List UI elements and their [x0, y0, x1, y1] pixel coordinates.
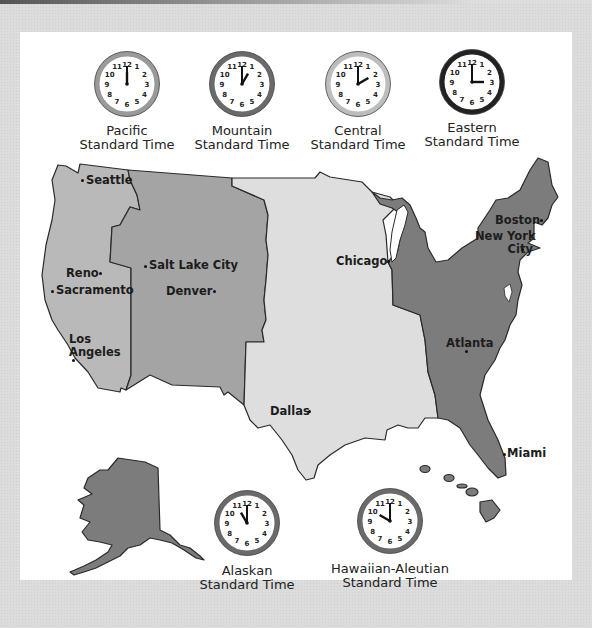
city-new-york-city: New York City	[475, 230, 533, 256]
clock-numeral: 2	[142, 71, 147, 79]
label-alaskan-line2: Standard Time	[177, 578, 317, 592]
clock-numeral: 2	[262, 510, 267, 518]
clock-numeral: 9	[336, 81, 341, 89]
label-hawaiian-line2: Standard Time	[320, 576, 460, 590]
clock-numeral: 5	[255, 537, 260, 545]
clock-numeral: 11	[227, 63, 237, 71]
city-dot-sacramento	[51, 290, 54, 293]
clock-numeral: 10	[225, 510, 235, 518]
clock-numeral: 5	[398, 535, 403, 543]
clock-alaskan: 121234567891011	[214, 490, 280, 556]
clock-numeral: 1	[366, 63, 371, 71]
clock-numeral: 11	[343, 63, 353, 71]
clock-numeral: 7	[346, 98, 351, 106]
clock-numeral: 4	[487, 89, 492, 97]
city-dot-reno	[99, 272, 102, 275]
clock-numeral: 5	[250, 98, 255, 106]
clock-numeral: 3	[376, 81, 381, 89]
clock-mountain: 121234567891011	[209, 51, 275, 117]
clock-numeral: 6	[388, 538, 393, 546]
city-seattle: Seattle	[86, 174, 133, 187]
city-los-angeles: Los Angeles	[69, 333, 121, 359]
clock-numeral: 4	[405, 528, 410, 536]
hawaii-island-kauai	[420, 466, 430, 473]
clock-numeral: 3	[260, 81, 265, 89]
clock-numeral: 3	[265, 520, 270, 528]
city-dot-miami	[503, 453, 506, 456]
clock-numeral: 7	[235, 537, 240, 545]
clock-numeral: 6	[245, 540, 250, 548]
clock-numeral: 2	[257, 71, 262, 79]
clock-numeral: 11	[112, 63, 122, 71]
clock-numeral: 7	[378, 535, 383, 543]
city-dallas: Dallas	[270, 405, 310, 418]
clock-numeral: 3	[490, 79, 495, 87]
clock-numeral: 10	[336, 71, 346, 79]
clock-numeral: 1	[398, 500, 403, 508]
city-boston: Boston	[495, 214, 540, 227]
label-eastern: Eastern Standard Time	[402, 121, 542, 149]
clock-numeral: 2	[405, 508, 410, 516]
city-dot-denver	[213, 290, 216, 293]
clock-numeral: 11	[232, 502, 242, 510]
clock-numeral: 9	[368, 518, 373, 526]
clock-numeral: 10	[105, 71, 115, 79]
city-dot-new-york-city	[521, 248, 524, 251]
clock-numeral: 9	[220, 81, 225, 89]
label-alaskan: Alaskan Standard Time	[177, 564, 317, 592]
clock-numeral: 2	[373, 71, 378, 79]
city-reno: Reno	[66, 267, 99, 280]
clock-numeral: 7	[230, 98, 235, 106]
clock-numeral: 11	[375, 500, 385, 508]
clock-pacific: 121234567891011	[94, 51, 160, 117]
city-sacramento: Sacramento	[56, 284, 134, 297]
hawaii-island-oahu	[444, 475, 454, 482]
hawaii-island-maui	[466, 488, 478, 496]
clock-numeral: 7	[460, 96, 465, 104]
clock-numeral: 8	[107, 91, 112, 99]
city-dot-atlanta	[465, 350, 468, 353]
clock-numeral: 7	[115, 98, 120, 106]
clock-numeral: 9	[105, 81, 110, 89]
hawaii-island-molokai	[457, 484, 467, 488]
clock-numeral: 6	[125, 101, 130, 109]
label-alaskan-line1: Alaskan	[177, 564, 317, 578]
label-eastern-line1: Eastern	[402, 121, 542, 135]
city-dot-chicago	[387, 260, 390, 263]
city-los-angeles-line2: Angeles	[69, 346, 121, 359]
clock-numeral: 6	[240, 101, 245, 109]
city-denver: Denver	[166, 285, 213, 298]
clock-numeral: 4	[142, 91, 147, 99]
city-dot-salt-lake-city	[144, 265, 147, 268]
clock-numeral: 5	[366, 98, 371, 106]
clock-numeral: 1	[135, 63, 140, 71]
clock-numeral: 10	[368, 508, 378, 516]
clock-numeral: 6	[470, 99, 475, 107]
clock-eastern: 121234567891011	[439, 49, 505, 115]
clock-numeral: 3	[408, 518, 413, 526]
clock-numeral: 4	[262, 530, 267, 538]
city-atlanta: Atlanta	[446, 337, 494, 350]
city-chicago: Chicago	[336, 255, 387, 268]
label-hawaiian-line1: Hawaiian-Aleutian	[320, 562, 460, 576]
city-dot-los-angeles	[72, 359, 75, 362]
clock-central: 121234567891011	[325, 51, 391, 117]
clock-numeral: 1	[250, 63, 255, 71]
clock-numeral: 4	[257, 91, 262, 99]
city-salt-lake-city: Salt Lake City	[149, 259, 238, 272]
city-dot-seattle	[81, 179, 84, 182]
clock-numeral: 10	[220, 71, 230, 79]
label-hawaiian: Hawaiian-Aleutian Standard Time	[320, 562, 460, 590]
clock-numeral: 5	[480, 96, 485, 104]
clock-numeral: 1	[480, 61, 485, 69]
clock-numeral: 8	[222, 91, 227, 99]
clock-numeral: 11	[457, 61, 467, 69]
clock-numeral: 8	[338, 91, 343, 99]
city-miami: Miami	[507, 447, 546, 460]
clock-numeral: 3	[145, 81, 150, 89]
clock-numeral: 10	[450, 69, 460, 77]
clock-numeral: 8	[370, 528, 375, 536]
hawaii-island-big-island	[480, 500, 500, 522]
clock-hawaiian: 121234567891011	[357, 488, 423, 554]
clock-numeral: 6	[356, 101, 361, 109]
